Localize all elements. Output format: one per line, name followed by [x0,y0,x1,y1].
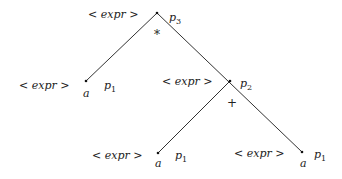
pointer-left: p1 [104,80,116,94]
edge-mid-ll [158,81,230,153]
leaf-lr: a [300,158,307,169]
node-dot-lr [301,151,304,154]
pointer-root: p3 [169,12,181,26]
node-label-root: < expr > [88,9,138,20]
leaf-left: a [83,88,90,99]
node-dot-mid [229,80,232,83]
pointer-letter: p [240,77,247,90]
node-label-left: < expr > [19,80,69,91]
pointer-letter: p [314,148,321,161]
node-dot-root [156,12,159,15]
node-label-mid: < expr > [162,76,212,87]
operator-times: * [154,29,160,41]
edge-root-left [86,13,157,81]
pointer-letter: p [169,11,176,24]
node-dot-left [85,80,88,83]
pointer-letter: p [175,149,182,162]
pointer-sub: 1 [111,85,116,94]
node-dot-ll [157,152,160,155]
pointer-sub: 1 [321,154,326,163]
pointer-lr: p1 [314,149,326,163]
pointer-mid: p2 [240,78,252,92]
node-label-lr: < expr > [234,148,284,159]
leaf-ll: a [155,158,162,169]
pointer-sub: 3 [176,17,181,26]
pointer-sub: 1 [182,155,187,164]
pointer-letter: p [104,79,111,92]
pointer-sub: 2 [247,83,252,92]
node-label-ll: < expr > [92,150,142,161]
operator-plus: + [227,97,237,109]
pointer-ll: p1 [175,150,187,164]
